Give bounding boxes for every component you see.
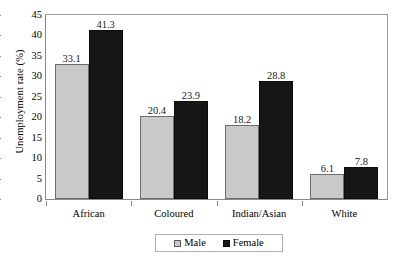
y-axis-tick-mark [0, 117, 1, 118]
bar-value-label: 18.2 [233, 114, 251, 125]
y-axis-tick-label: 15 [1, 132, 42, 144]
unemployment-rate-bar-chart: Unemployment rate (%) 454035302520151050… [0, 0, 394, 259]
y-axis-tick-mark [0, 179, 1, 180]
y-axis-tick-mark [0, 158, 1, 159]
y-axis-tick-label: 35 [1, 50, 42, 62]
x-axis-tick-mark [217, 201, 218, 206]
bar-value-label: 23.9 [182, 90, 200, 101]
y-axis-tick-label: 10 [1, 152, 42, 164]
bar-value-label: 33.1 [62, 53, 80, 64]
bar-male-indian-asian[interactable]: 18.2 [225, 125, 259, 199]
bar-female-african[interactable]: 41.3 [89, 30, 123, 199]
y-axis-tick-label: 20 [1, 111, 42, 123]
y-axis-tick-mark [0, 35, 1, 36]
bar-female-white[interactable]: 7.8 [344, 167, 378, 199]
x-axis-category-label: Coloured [154, 207, 193, 220]
y-axis-tick-label: 40 [1, 29, 42, 41]
legend-label: Female [233, 237, 264, 249]
x-axis-category-label: White [332, 207, 358, 220]
y-axis-tick-mark [0, 15, 1, 16]
bar-female-coloured[interactable]: 23.9 [174, 101, 208, 199]
legend-item-male[interactable]: Male [174, 237, 206, 249]
bar-group: 6.17.8 [310, 15, 378, 199]
legend-swatch-male-icon [174, 240, 181, 247]
bar-group: 18.228.8 [225, 15, 293, 199]
bar-value-label: 28.8 [267, 70, 285, 81]
x-axis-tick-mark [302, 201, 303, 206]
y-axis-tick-label: 30 [1, 70, 42, 82]
legend-item-female[interactable]: Female [223, 237, 264, 249]
bar-group: 20.423.9 [140, 15, 208, 199]
y-axis-tick-mark [0, 199, 1, 200]
bar-value-label: 6.1 [321, 163, 334, 174]
plot-area: 45403530252015105033.141.320.423.918.228… [45, 14, 388, 200]
x-axis-tick-mark [131, 201, 132, 206]
bar-male-white[interactable]: 6.1 [310, 174, 344, 199]
y-axis-tick-label: 45 [1, 9, 42, 21]
legend-label: Male [184, 237, 206, 249]
x-axis-tick-mark [46, 201, 47, 206]
y-axis-tick-mark [0, 97, 1, 98]
bar-female-indian-asian[interactable]: 28.8 [259, 81, 293, 199]
y-axis-tick-mark [0, 56, 1, 57]
bar-value-label: 7.8 [355, 156, 368, 167]
chart-legend: MaleFemale [155, 234, 283, 252]
y-axis-tick-label: 0 [1, 193, 42, 205]
bar-value-label: 20.4 [148, 105, 166, 116]
y-axis-tick-mark [0, 76, 1, 77]
plot-inner: 45403530252015105033.141.320.423.918.228… [46, 15, 387, 199]
y-axis-tick-label: 5 [1, 173, 42, 185]
bar-group: 33.141.3 [55, 15, 123, 199]
x-axis-category-label: Indian/Asian [232, 207, 286, 220]
bar-value-label: 41.3 [96, 19, 114, 30]
bar-male-african[interactable]: 33.1 [55, 64, 89, 199]
legend-swatch-female-icon [223, 240, 230, 247]
x-axis-category-label: African [73, 207, 105, 220]
y-axis-tick-label: 25 [1, 91, 42, 103]
bar-male-coloured[interactable]: 20.4 [140, 116, 174, 199]
y-axis-tick-mark [0, 138, 1, 139]
